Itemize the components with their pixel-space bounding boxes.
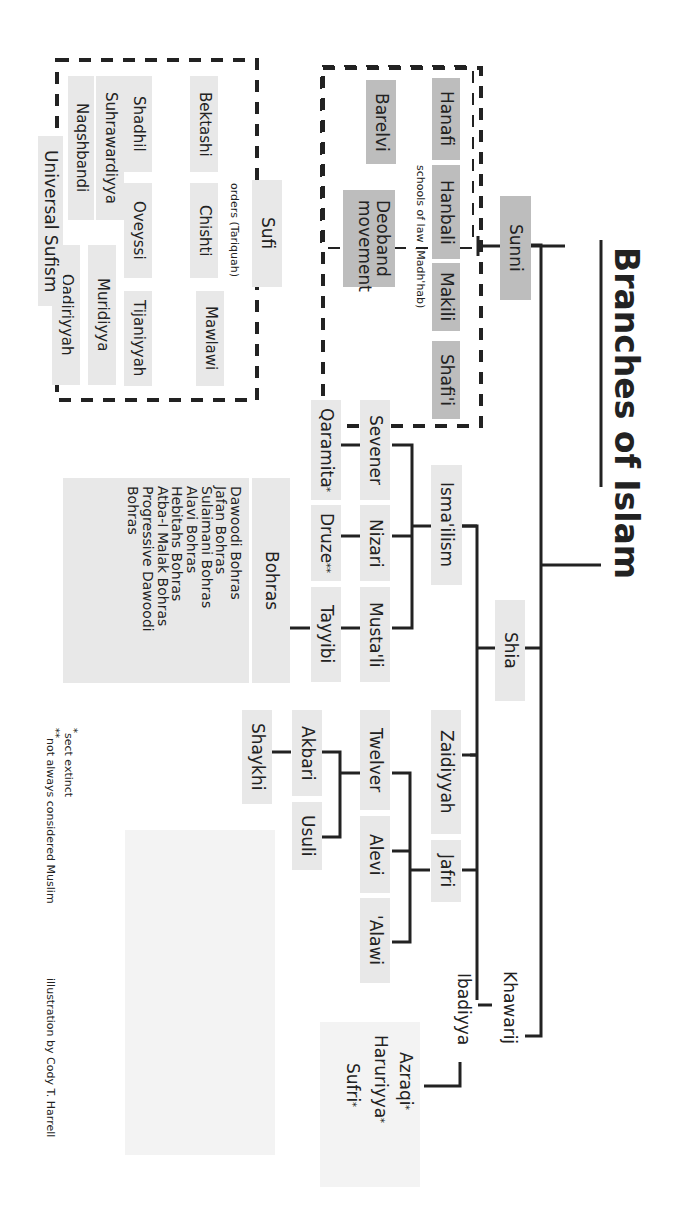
legend-not-muslim-text: not always considered Muslim: [44, 738, 57, 904]
node-tayyibi: Tayyibi: [311, 587, 341, 682]
node-sufri: Sufri*: [340, 1063, 364, 1153]
branches-of-islam-diagram: Branches of Islam Sunni Hanafi Hanbali M…: [0, 0, 678, 1228]
legend-extinct: *sect extinct: [62, 728, 79, 797]
node-zaidiyyah: Zaidiyyah: [431, 710, 461, 834]
node-nizari: Nizari: [360, 505, 390, 581]
sufi-order-shadhil: Shadhil: [124, 76, 152, 172]
extinct-marker: *: [347, 1102, 358, 1107]
node-alevi: Alevi: [360, 816, 390, 893]
node-universal-sufism: Universal Sufism: [38, 136, 63, 306]
node-shafii: Shafi'i: [432, 341, 460, 419]
node-alawi: 'Alawi: [360, 898, 390, 983]
empty-placeholder-box: [125, 830, 275, 1155]
node-twelver: Twelver: [360, 710, 390, 810]
node-sevener: Sevener: [360, 400, 390, 500]
sufi-order-naqshbandi: Naqshbandi: [68, 76, 94, 220]
sufi-order-chishti: Chishti: [190, 183, 218, 278]
node-jafri: Jafri: [431, 840, 461, 902]
extinct-marker: *: [321, 487, 332, 492]
sufri-label: Sufri: [343, 1063, 361, 1102]
node-sufi: Sufi: [252, 180, 282, 287]
node-haruriyya: Haruriyya*: [368, 1035, 392, 1165]
node-barelvi: Barelvi: [366, 80, 396, 164]
node-mustali: Musta'li: [360, 587, 390, 682]
illustration-credit: illustration by Cody T. Harrell: [44, 978, 57, 1137]
sufi-order-mawlawi: Mawlawi: [196, 291, 224, 386]
sufi-order-suhrawardiyya: Suhrawardiyya: [96, 76, 124, 220]
sufi-orders-caption: orders (Tariquah): [224, 160, 244, 300]
diagram-title: Branches of Islam: [607, 247, 646, 579]
haruriyya-label: Haruriyya: [371, 1035, 389, 1118]
not-muslim-marker: **: [321, 563, 332, 573]
not-muslim-marker: **: [50, 728, 61, 738]
node-qaramita: Qaramita*: [311, 400, 341, 500]
node-deoband-movement: Deoband movement: [343, 190, 395, 287]
sufi-order-tijaniyyah: Tijaniyyah: [124, 291, 152, 386]
azraqi-label: Azraqi: [396, 1052, 414, 1105]
node-makili: Makili: [432, 263, 460, 331]
bohras-sub-list: Dawoodi Bohras Jafan Bohras Sulaimani Bo…: [63, 478, 249, 683]
node-akbari: Akbari: [292, 710, 322, 796]
node-khawarij: Khawarij: [494, 960, 524, 1055]
sufi-order-oveyssi: Oveyssi: [124, 183, 152, 278]
sufi-order-muridiyya: Muridiyya: [88, 245, 116, 385]
sufi-order-bektashi: Bektashi: [190, 76, 218, 172]
node-ibadiyya: Ibadiyya: [448, 962, 478, 1057]
extinct-marker: *: [375, 1118, 386, 1123]
node-azraqi: Azraqi*: [393, 1052, 417, 1152]
node-ismailism: Isma'ilism: [431, 465, 462, 585]
node-bohras: Bohras: [252, 478, 290, 683]
extinct-marker: *: [400, 1105, 411, 1110]
node-druze: Druze**: [311, 505, 341, 581]
node-hanafi: Hanafi: [432, 78, 460, 160]
node-sunni: Sunni: [500, 196, 531, 300]
legend-not-muslim: **not always considered Muslim: [44, 728, 61, 904]
druze-label: Druze: [317, 513, 335, 563]
node-shia: Shia: [495, 600, 525, 701]
schools-of-law-caption: schools of law (Madh'hab): [410, 152, 430, 322]
legend-extinct-text: sect extinct: [62, 733, 75, 797]
node-hanbali: Hanbali: [432, 165, 460, 259]
node-usuli: Usuli: [292, 802, 322, 870]
qaramita-label: Qaramita: [317, 408, 335, 488]
node-shaykhi: Shaykhi: [242, 710, 272, 804]
